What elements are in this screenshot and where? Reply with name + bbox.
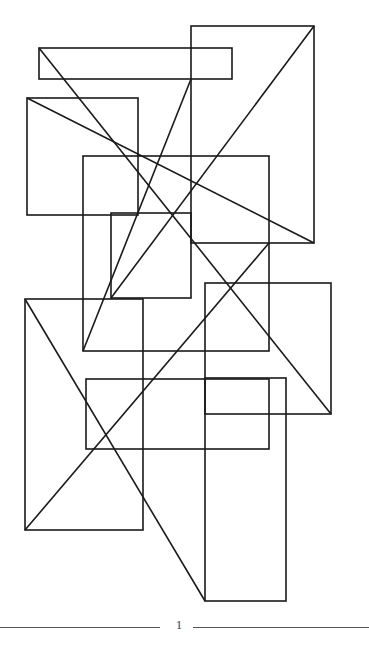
rectangle-left-lower (25, 299, 143, 530)
rectangle-right-middle (205, 283, 331, 414)
rectangle-top-bar (39, 48, 232, 79)
page-number: 1 (173, 618, 185, 633)
geometric-line-drawing (0, 0, 369, 645)
diagonal-line-5 (25, 299, 205, 601)
rectangle-right-tall (191, 26, 314, 243)
rectangle-bottom-tall (205, 378, 286, 601)
diagonals-group (25, 26, 331, 601)
diagonal-line-3 (27, 98, 314, 243)
diagonal-line-1 (111, 26, 314, 298)
diagonal-line-4 (25, 243, 269, 530)
footer-rule-left (0, 627, 160, 628)
footer-rule-right (193, 627, 369, 628)
rectangle-small-center (111, 213, 191, 298)
